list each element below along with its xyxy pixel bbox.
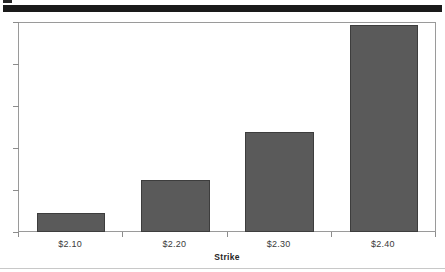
y-axis-tick: [13, 148, 19, 149]
x-axis-title: Strike: [18, 252, 436, 262]
y-axis-tick: [13, 64, 19, 65]
x-axis-tick: [331, 232, 332, 237]
x-axis-tick: [227, 232, 228, 237]
x-axis-tick: [435, 232, 436, 237]
bar: [37, 213, 105, 232]
bar: [141, 180, 209, 232]
x-axis-tick-label: $2.20: [122, 239, 226, 249]
y-axis-tick: [13, 22, 19, 23]
plot-area: [19, 23, 436, 232]
y-axis-tick: [13, 106, 19, 107]
x-axis-tick: [18, 232, 19, 237]
x-axis-tick-label: $2.40: [331, 239, 435, 249]
x-axis-tick: [122, 232, 123, 237]
bar: [350, 25, 418, 232]
chart-page: $2.10$2.20$2.30$2.40 Strike: [0, 0, 445, 272]
bar-chart: $2.10$2.20$2.30$2.40 Strike: [0, 0, 445, 272]
x-axis-tick-label: $2.10: [18, 239, 122, 249]
bar: [245, 132, 313, 232]
x-axis-tick-label: $2.30: [227, 239, 331, 249]
footer-rule: [0, 268, 445, 269]
y-axis-tick: [13, 190, 19, 191]
